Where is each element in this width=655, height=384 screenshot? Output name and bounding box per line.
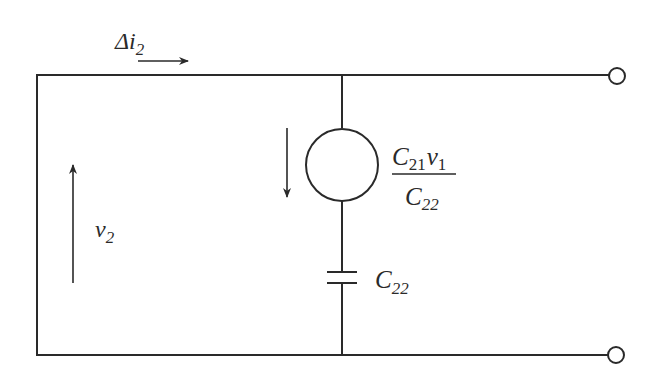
voltage-label: v2 bbox=[95, 216, 115, 247]
terminal-bottom bbox=[608, 347, 624, 363]
dependent-current-source bbox=[306, 129, 378, 201]
source-value-denominator: C22 bbox=[405, 183, 439, 214]
current-label: Δi2 bbox=[114, 28, 145, 59]
source-value-numerator: C21v1 bbox=[392, 143, 446, 174]
circuit-diagram: Δi2 v2 C21v1 C22 C22 bbox=[0, 0, 655, 384]
capacitor-label: C22 bbox=[375, 266, 409, 298]
terminal-top bbox=[609, 68, 625, 84]
